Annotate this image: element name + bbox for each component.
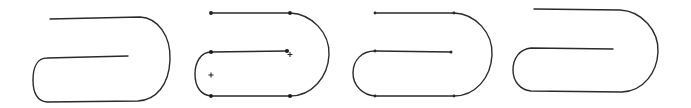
fitted-point [374,12,377,15]
arc-center-marker [288,52,293,57]
control-curve [195,13,329,96]
fitted-point [450,51,453,54]
final-curve [513,9,658,92]
control-point [285,49,289,53]
paperclip-diagram [0,0,691,108]
panel-final-curve [513,9,658,92]
panel-fitted-points [353,12,492,98]
fitted-point [374,95,377,98]
control-point [288,11,292,15]
control-point [209,50,213,54]
control-point [288,94,292,98]
panel-freehand-sketch [33,17,170,102]
arc-center-marker [209,73,214,78]
diagram-canvas [0,0,691,108]
control-point [209,11,213,15]
fitted-point [453,95,456,98]
control-point [209,94,213,98]
fitted-point [453,12,456,15]
panel-control-points [195,11,329,98]
fitted-point [374,50,377,53]
fitted-curve [353,13,492,96]
sketch-curve [33,17,170,102]
